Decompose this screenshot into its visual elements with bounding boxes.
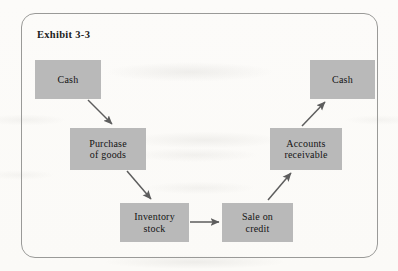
node-sale-label-line1: Sale on: [242, 211, 273, 223]
node-cash-start-label-line1: Cash: [58, 74, 79, 86]
node-inventory-stock: Inventory stock: [120, 203, 189, 242]
node-sale-label-line2: credit: [242, 223, 273, 235]
node-accounts-receivable: Accounts receivable: [270, 128, 342, 170]
node-sale-on-credit: Sale on credit: [222, 203, 293, 242]
node-cash-end-label-line1: Cash: [332, 74, 353, 86]
node-cash-start: Cash: [35, 60, 101, 99]
node-receivable-label-line1: Accounts: [284, 138, 327, 150]
node-purchase-label-line1: Purchase: [89, 138, 127, 150]
node-cash-end: Cash: [310, 60, 375, 99]
node-receivable-label-line2: receivable: [284, 149, 327, 161]
node-inventory-label-line1: Inventory: [134, 211, 175, 223]
exhibit-page: Exhibit 3-3 Cash Purchase of goods Inven…: [0, 0, 398, 271]
node-inventory-label-line2: stock: [134, 223, 175, 235]
node-purchase-label-line2: of goods: [89, 149, 127, 161]
node-purchase-of-goods: Purchase of goods: [70, 128, 146, 170]
exhibit-title: Exhibit 3-3: [37, 29, 90, 40]
